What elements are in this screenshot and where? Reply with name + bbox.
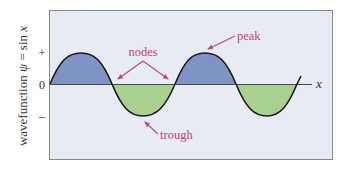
y-tick-plus: + xyxy=(38,45,45,60)
peak-label: peak xyxy=(237,29,261,43)
y-tick-minus: – xyxy=(38,108,46,123)
y-tick-zero: 0 xyxy=(39,78,45,92)
wavefunction-diagram: + 0 – wavefunction ψ = sin x x nodes pea… xyxy=(0,0,346,171)
x-axis-label: x xyxy=(315,76,322,91)
trough-label: trough xyxy=(160,128,193,142)
y-axis-label: wavefunction ψ = sin x xyxy=(15,26,30,146)
nodes-label: nodes xyxy=(128,45,157,59)
